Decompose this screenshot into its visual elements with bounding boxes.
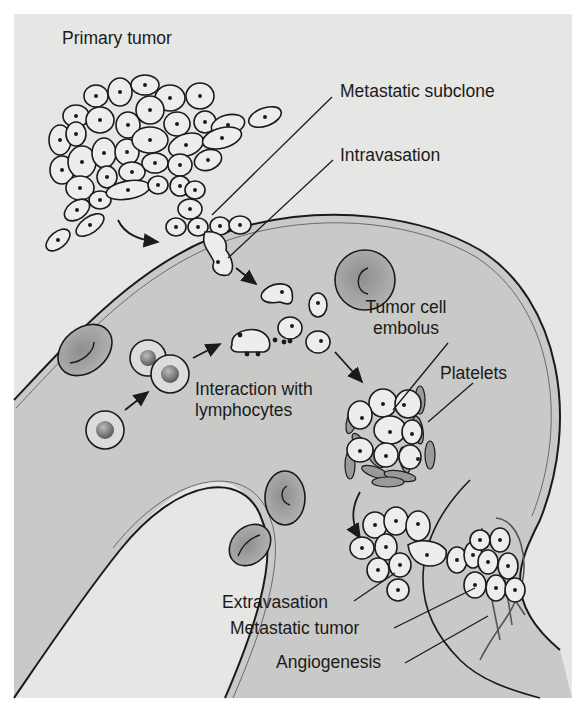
label-platelets: Platelets [440,363,507,384]
label-extravasation: Extravasation [222,592,328,613]
label-primary-tumor: Primary tumor [62,28,172,49]
label-tumor-cell-embolus-line1: Tumor cell [356,297,456,318]
label-metastatic-tumor: Metastatic tumor [230,618,359,639]
label-interaction-line1: Interaction with [195,379,313,400]
label-tumor-cell-embolus-line2: embolus [356,318,456,339]
label-intravasation: Intravasation [340,145,440,166]
label-metastatic-subclone: Metastatic subclone [340,81,495,102]
progression-arrow-1 [118,220,158,242]
label-angiogenesis: Angiogenesis [276,652,381,673]
label-tumor-cell-embolus: Tumor cell embolus [356,297,456,339]
label-interaction-with-lymphocytes: Interaction with lymphocytes [195,379,313,421]
label-interaction-line2: lymphocytes [195,400,313,421]
